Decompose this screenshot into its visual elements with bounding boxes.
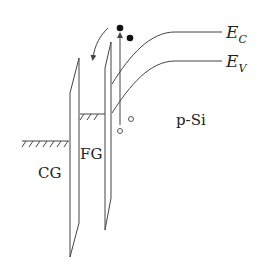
tunnel-oxide-barrier [105, 42, 111, 230]
substrate-label: p-Si [176, 111, 206, 129]
ev-label: EV [225, 51, 247, 75]
control-gate-label: CG [38, 164, 61, 182]
electron-icon [117, 25, 124, 32]
electron-icon [127, 35, 134, 42]
injection-arrow [93, 28, 108, 58]
hole-icon [129, 117, 134, 122]
control-gate-oxide-barrier [70, 58, 79, 257]
hole-icon [118, 129, 123, 134]
ec-label: EC [225, 22, 247, 46]
floating-gate-fermi-level [80, 114, 105, 120]
valence-band-curve [112, 61, 222, 113]
floating-gate-label: FG [80, 145, 102, 163]
control-gate-fermi-level [22, 141, 69, 147]
band-diagram: EC EV p-Si FG CG [0, 0, 265, 279]
